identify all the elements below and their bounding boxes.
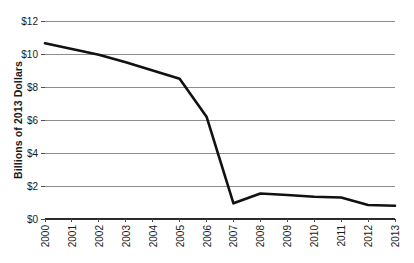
y-axis-tick-label: $10 xyxy=(21,49,38,60)
x-axis-tick-label: 2013 xyxy=(390,225,401,248)
x-axis-tick-label: 2005 xyxy=(175,225,186,248)
y-axis-tick-label: $12 xyxy=(21,16,38,27)
x-axis-tick-label: 2003 xyxy=(121,225,132,248)
y-axis-tick-label: $4 xyxy=(27,148,39,159)
y-axis-title: Billions of 2013 Dollars xyxy=(12,61,24,179)
x-axis-tick-label: 2008 xyxy=(255,225,266,248)
y-axis-tick-label: $2 xyxy=(27,181,39,192)
chart-background xyxy=(0,0,414,263)
y-axis-tick-label: $0 xyxy=(27,214,39,225)
x-axis-tick-label: 2010 xyxy=(309,225,320,248)
x-axis-tick-label: 2000 xyxy=(40,225,51,248)
x-axis-tick-label: 2001 xyxy=(67,225,78,248)
chart-container: $0$2$4$6$8$10$12 20002001200220032004200… xyxy=(0,0,414,263)
x-axis-tick-label: 2002 xyxy=(94,225,105,248)
x-axis-tick-label: 2007 xyxy=(228,225,239,248)
x-axis-tick-label: 2012 xyxy=(363,225,374,248)
x-axis-tick-label: 2009 xyxy=(282,225,293,248)
y-axis-tick-label: $8 xyxy=(27,82,39,93)
x-axis-tick-label: 2011 xyxy=(336,225,347,247)
x-axis-tick-label: 2006 xyxy=(202,225,213,248)
line-chart: $0$2$4$6$8$10$12 20002001200220032004200… xyxy=(0,0,414,263)
x-axis-tick-label: 2004 xyxy=(148,225,159,248)
y-axis-tick-label: $6 xyxy=(27,115,39,126)
